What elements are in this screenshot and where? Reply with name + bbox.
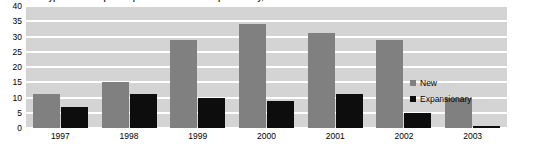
bar-group	[445, 6, 500, 128]
bar-new-1999	[170, 40, 197, 128]
chart-title: Type of U.S. Capital Expenditure: New vs…	[44, 0, 305, 2]
x-axis-tick-label: 1998	[120, 131, 139, 141]
y-axis-tick-label: 0	[17, 124, 22, 133]
y-axis-tick-label: 5	[17, 109, 22, 118]
chart-legend: NewExpansionary	[410, 75, 534, 107]
y-axis-tick-label: 40	[13, 2, 22, 11]
legend-swatch-icon	[410, 96, 416, 102]
bar-group	[376, 6, 431, 128]
bar-group	[102, 6, 157, 128]
y-axis-tick-label: 35	[13, 17, 22, 26]
bar-new-1997	[33, 94, 60, 128]
y-axis: 0510152025303540	[0, 6, 22, 128]
bar-expansionary-2000	[267, 101, 294, 128]
x-axis-tick-label: 2002	[394, 131, 413, 141]
bar-new-2002	[376, 40, 403, 128]
y-axis-tick-label: 10	[13, 93, 22, 102]
x-axis-tick-label: 1999	[188, 131, 207, 141]
bar-expansionary-1997	[61, 107, 88, 128]
bars-layer	[26, 6, 507, 128]
y-axis-tick-label: 15	[13, 78, 22, 87]
legend-entry-new: New	[410, 75, 534, 91]
bar-group	[170, 6, 225, 128]
bar-group	[239, 6, 294, 128]
y-axis-tick-label: 25	[13, 48, 22, 57]
y-axis-tick-label: 30	[13, 32, 22, 41]
bar-expansionary-2003	[473, 126, 500, 128]
bar-new-1998	[102, 82, 129, 128]
x-axis-tick-label: 2001	[326, 131, 345, 141]
legend-label: Expansionary	[420, 94, 472, 104]
x-axis: 1997199819992000200120022003	[26, 131, 507, 147]
y-axis-tick-label: 20	[13, 63, 22, 72]
bar-group	[33, 6, 88, 128]
legend-label: New	[420, 78, 437, 88]
bar-expansionary-2001	[336, 94, 363, 128]
plot-area	[26, 6, 507, 128]
x-axis-tick-label: 1997	[51, 131, 70, 141]
bar-chart: Type of U.S. Capital Expenditure: New vs…	[0, 0, 539, 160]
bar-expansionary-1998	[130, 94, 157, 128]
x-axis-tick-label: 2003	[463, 131, 482, 141]
legend-entry-expansionary: Expansionary	[410, 91, 534, 107]
bar-new-2001	[308, 33, 335, 128]
bar-expansionary-1999	[198, 98, 225, 129]
x-axis-tick-label: 2000	[257, 131, 276, 141]
legend-swatch-icon	[410, 80, 416, 86]
bar-group	[308, 6, 363, 128]
bar-expansionary-2002	[404, 113, 431, 128]
bar-new-2000	[239, 24, 266, 128]
